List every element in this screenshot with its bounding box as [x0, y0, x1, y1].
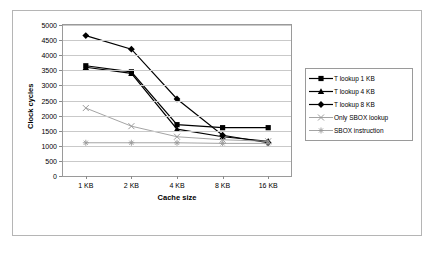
legend-label: T lookup 4 KB: [334, 87, 375, 96]
y-tick-label: 0: [53, 173, 57, 180]
legend-marker-cross-icon: [308, 112, 334, 123]
data-point-square: [266, 125, 271, 130]
legend-item: T lookup 8 KB: [308, 98, 410, 111]
legend-item: SBOX instruction: [308, 124, 410, 137]
y-tick-mark: [59, 131, 62, 132]
y-tick-mark: [59, 85, 62, 86]
y-tick-label: 1500: [41, 127, 57, 134]
x-tick-mark: [177, 176, 178, 179]
data-point-cross: [83, 105, 89, 111]
y-tick-label: 1000: [41, 142, 57, 149]
y-tick-mark: [59, 55, 62, 56]
y-tick-mark: [59, 40, 62, 41]
legend-label: SBOX instruction: [334, 126, 384, 135]
data-point-diamond: [318, 101, 325, 108]
y-tick-mark: [59, 146, 62, 147]
y-tick-mark: [59, 25, 62, 26]
y-tick-mark: [59, 161, 62, 162]
gridline: [63, 101, 291, 102]
chart-figure: Clock cycles Cache size 0500100015002000…: [0, 0, 434, 255]
data-point-square: [220, 125, 225, 130]
x-tick-mark: [223, 176, 224, 179]
legend-item: Only SBOX lookup: [308, 111, 410, 124]
y-tick-label: 500: [45, 157, 57, 164]
data-point-cross: [128, 123, 134, 129]
gridline: [63, 25, 291, 26]
y-tick-label: 3500: [41, 67, 57, 74]
gridline: [63, 131, 291, 132]
legend-marker-asterisk-icon: [308, 125, 334, 136]
y-tick-label: 2500: [41, 97, 57, 104]
y-tick-label: 5000: [41, 22, 57, 29]
x-tick-mark: [268, 176, 269, 179]
gridline: [63, 116, 291, 117]
x-tick-mark: [131, 176, 132, 179]
data-point-square: [318, 76, 323, 81]
legend-marker-triangle-icon: [308, 86, 334, 97]
y-tick-mark: [59, 176, 62, 177]
gridline: [63, 85, 291, 86]
series-1: [83, 64, 272, 144]
x-axis-label: Cache size: [62, 193, 292, 202]
legend-label: T lookup 8 KB: [334, 100, 375, 109]
data-point-diamond: [82, 32, 89, 39]
plot-area: [62, 24, 292, 177]
y-tick-mark: [59, 116, 62, 117]
x-tick-label: 2 KB: [124, 182, 139, 189]
gridline: [63, 161, 291, 162]
y-tick-label: 2000: [41, 112, 57, 119]
y-tick-label: 3000: [41, 82, 57, 89]
gridline: [63, 55, 291, 56]
data-point-asterisk: [318, 128, 324, 134]
gridline: [63, 146, 291, 147]
x-tick-label: 4 KB: [169, 182, 184, 189]
gridline: [63, 40, 291, 41]
y-tick-label: 4500: [41, 37, 57, 44]
legend-label: Only SBOX lookup: [334, 113, 388, 122]
legend-marker-square-icon: [308, 73, 334, 84]
legend-label: T lookup 1 KB: [334, 74, 375, 83]
legend-item: T lookup 1 KB: [308, 72, 410, 85]
y-tick-label: 4000: [41, 52, 57, 59]
x-tick-label: 16 KB: [259, 182, 278, 189]
legend-item: T lookup 4 KB: [308, 85, 410, 98]
chart-legend: T lookup 1 KBT lookup 4 KBT lookup 8 KBO…: [305, 68, 413, 141]
x-tick-label: 8 KB: [215, 182, 230, 189]
y-tick-mark: [59, 70, 62, 71]
x-tick-label: 1 KB: [78, 182, 93, 189]
y-axis-label: Clock cycles: [26, 83, 35, 128]
x-tick-mark: [86, 176, 87, 179]
y-tick-mark: [59, 101, 62, 102]
gridline: [63, 70, 291, 71]
legend-marker-diamond-icon: [308, 99, 334, 110]
